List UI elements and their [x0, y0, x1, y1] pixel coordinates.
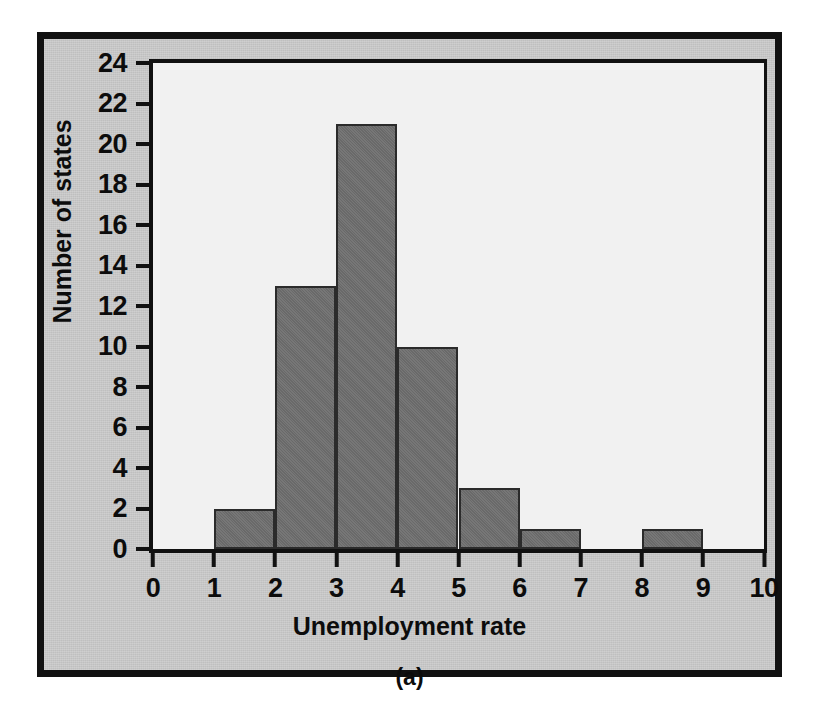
x-axis-tick-mark — [334, 553, 338, 567]
x-axis-tick-label: 6 — [512, 575, 527, 602]
x-axis-tick-label: 5 — [451, 575, 466, 602]
histogram-bar — [642, 529, 703, 549]
x-axis-tick-mark — [579, 553, 583, 567]
y-axis-tick-mark — [136, 102, 149, 106]
histogram-bar — [214, 509, 275, 550]
y-axis: 024681012141618202224 — [44, 39, 149, 573]
y-axis-tick-label: 12 — [98, 293, 127, 320]
y-axis-tick-label: 16 — [98, 212, 127, 239]
y-axis-tick-label: 24 — [98, 50, 127, 77]
x-axis-tick: 2 — [268, 553, 283, 602]
x-axis-tick-label: 3 — [329, 575, 344, 602]
y-axis-tick-mark — [136, 223, 149, 227]
x-axis-tick: 10 — [749, 553, 778, 602]
y-axis-tick-mark — [136, 507, 149, 511]
y-axis-tick-mark — [136, 426, 149, 430]
x-axis-tick-mark — [395, 553, 399, 567]
x-axis-tick: 4 — [390, 553, 405, 602]
x-axis-tick: 7 — [573, 553, 588, 602]
x-axis-tick-label: 0 — [146, 575, 161, 602]
x-axis-tick-mark — [640, 553, 644, 567]
x-axis-tick-label: 10 — [749, 575, 778, 602]
x-axis-tick: 1 — [207, 553, 222, 602]
y-axis-tick-mark — [136, 142, 149, 146]
x-axis-tick-label: 7 — [573, 575, 588, 602]
x-axis-tick: 0 — [146, 553, 161, 602]
y-axis-tick-label: 22 — [98, 90, 127, 117]
x-axis-tick-mark — [212, 553, 216, 567]
y-axis-tick-label: 4 — [112, 455, 127, 482]
x-axis-tick: 9 — [696, 553, 711, 602]
y-axis-tick-mark — [136, 183, 149, 187]
x-axis-tick-mark — [151, 553, 155, 567]
x-axis-tick-mark — [701, 553, 705, 567]
x-axis-tick-mark — [762, 553, 766, 567]
histogram-bar — [520, 529, 581, 549]
y-axis-tick-label: 6 — [112, 414, 127, 441]
x-axis-tick-label: 8 — [635, 575, 650, 602]
x-axis-tick: 8 — [635, 553, 650, 602]
histogram-bar — [275, 286, 336, 549]
y-axis-tick-label: 10 — [98, 333, 127, 360]
y-axis-tick-mark — [136, 61, 149, 65]
x-axis-tick: 5 — [451, 553, 466, 602]
x-axis-tick: 6 — [512, 553, 527, 602]
x-axis-tick: 3 — [329, 553, 344, 602]
y-axis-tick-label: 2 — [112, 495, 127, 522]
plot-area — [149, 59, 767, 553]
x-axis-tick-mark — [457, 553, 461, 567]
x-axis-tick-mark — [518, 553, 522, 567]
histogram-bar — [397, 347, 458, 550]
x-axis-tick-label: 4 — [390, 575, 405, 602]
y-axis-tick-label: 8 — [112, 374, 127, 401]
x-axis-title: Unemployment rate — [44, 612, 775, 641]
y-axis-tick-label: 14 — [98, 252, 127, 279]
histogram-bar — [336, 124, 397, 549]
y-axis-tick-mark — [136, 264, 149, 268]
figure-panel: Number of states 024681012141618202224 0… — [37, 32, 782, 677]
y-axis-tick-mark — [136, 547, 149, 551]
panel-caption: (a) — [44, 664, 775, 691]
x-axis-tick-label: 9 — [696, 575, 711, 602]
y-axis-tick-mark — [136, 466, 149, 470]
y-axis-tick-mark — [136, 304, 149, 308]
plot-inner — [153, 63, 764, 549]
y-axis-tick-mark — [136, 385, 149, 389]
x-axis-tick-mark — [273, 553, 277, 567]
x-axis-tick-label: 1 — [207, 575, 222, 602]
y-axis-tick-label: 0 — [112, 536, 127, 563]
histogram-bar — [459, 488, 520, 549]
x-axis-tick-label: 2 — [268, 575, 283, 602]
y-axis-tick-label: 18 — [98, 171, 127, 198]
y-axis-tick-label: 20 — [98, 131, 127, 158]
y-axis-tick-mark — [136, 345, 149, 349]
